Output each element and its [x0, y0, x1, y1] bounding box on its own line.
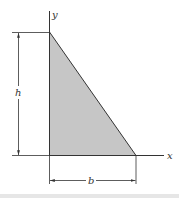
- y-axis-label: y: [51, 9, 58, 20]
- x-axis-label: x: [167, 150, 173, 161]
- triangle-shape: [50, 32, 137, 156]
- bottom-band: [0, 194, 179, 198]
- base-label: b: [88, 175, 94, 186]
- height-label: h: [15, 87, 21, 98]
- triangle-diagram: y x h b: [0, 0, 179, 198]
